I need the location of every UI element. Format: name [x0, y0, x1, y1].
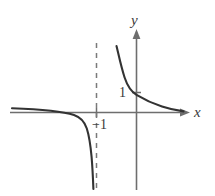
tick-label-negative-one: −1	[92, 118, 107, 132]
function-graph-figure: y x 1 −1	[0, 0, 215, 196]
y-axis-label: y	[131, 13, 138, 28]
x-axis-label: x	[194, 105, 201, 120]
curve-right-branch	[117, 46, 184, 111]
y-axis	[133, 29, 141, 190]
x-axis-arrowhead	[180, 109, 190, 117]
curve-left-branch	[12, 108, 93, 189]
graph-canvas	[0, 0, 215, 196]
tick-label-one: 1	[119, 86, 126, 100]
y-axis-arrowhead	[133, 29, 141, 39]
